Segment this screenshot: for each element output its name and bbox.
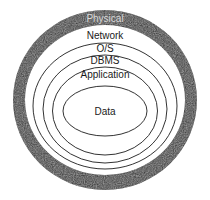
layer-label-os: O/S: [96, 43, 114, 54]
layer-application: Application: [81, 69, 130, 80]
layer-label-network: Network: [87, 30, 125, 41]
layer-label-physical: Physical: [86, 13, 123, 24]
layer-label-application: Application: [81, 69, 130, 80]
security-layers-diagram: Physical Network O/S DBMS Application Da…: [0, 0, 210, 200]
layer-data: Data: [63, 86, 147, 136]
layer-label-data: Data: [94, 106, 116, 117]
layer-label-dbms: DBMS: [91, 55, 120, 66]
